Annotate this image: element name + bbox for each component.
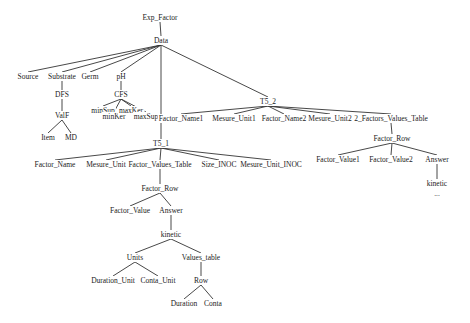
node-factor-row-2: Factor_Row bbox=[372, 134, 412, 143]
node-label: Conta_Unit bbox=[141, 276, 177, 285]
node-units: Units bbox=[126, 253, 144, 262]
node-label: maxSup bbox=[134, 112, 159, 121]
node-label: kinetic bbox=[161, 230, 182, 239]
edge-factor_row_2-factor_value1 bbox=[338, 143, 392, 155]
node-factor-value1: Factor_Value1 bbox=[315, 155, 361, 164]
node-label: Row bbox=[194, 276, 209, 285]
tree-diagram: Exp_FactorDataSourceSubstrateGermpHDFSVa… bbox=[0, 0, 470, 323]
node-label: Factor_Name2 bbox=[262, 114, 307, 123]
node-item: Item bbox=[40, 133, 56, 142]
edge-row-duration bbox=[184, 285, 201, 299]
node-label: T5_1 bbox=[153, 139, 169, 148]
node-factor-name2: Factor_Name2 bbox=[261, 114, 308, 123]
node-conta-unit: Conta_Unit bbox=[140, 276, 178, 285]
node-size-inoc: Size_INOC bbox=[201, 160, 238, 169]
node-label: CFS bbox=[114, 90, 127, 99]
node-germ: Germ bbox=[80, 72, 99, 81]
node-factor-name: Factor_Name bbox=[34, 160, 77, 169]
node-md: MD bbox=[64, 133, 79, 142]
node-kinetic-1: kinetic bbox=[160, 230, 183, 239]
node-label: Source bbox=[18, 72, 39, 81]
node-label: Mesure_Unit bbox=[86, 160, 126, 169]
edge-factor_row_2-factor_value2 bbox=[391, 143, 392, 155]
node-label: MD bbox=[65, 133, 78, 142]
node-source: Source bbox=[17, 72, 40, 81]
edge-two_factors_values_table-factor_row_2 bbox=[391, 123, 392, 134]
node-label: Germ bbox=[81, 72, 98, 81]
node-maxsup: maxSup bbox=[133, 112, 160, 121]
node-mesure-unit2: Mesure_Unit2 bbox=[307, 114, 353, 123]
node-t5-1: T5_1 bbox=[152, 139, 170, 148]
node-label: Data bbox=[154, 36, 169, 45]
node-label: Answer bbox=[425, 155, 449, 164]
node-label: Factor_Values_Table bbox=[128, 160, 192, 169]
edge-valf-md bbox=[62, 120, 71, 133]
node-label: Answer bbox=[159, 206, 183, 215]
edge-data-t5_2 bbox=[161, 45, 268, 97]
edge-kinetic_1-units bbox=[135, 239, 171, 253]
node-factor-values-table: Factor_Values_Table bbox=[127, 160, 193, 169]
edge-units-conta_unit bbox=[135, 262, 158, 276]
node-answer-1: Answer bbox=[158, 206, 184, 215]
node-substrate: Substrate bbox=[47, 72, 78, 81]
node-row: Row bbox=[193, 276, 210, 285]
node-label: 2_Factors_Values_Table bbox=[354, 114, 428, 123]
node-mesure-unit1: Mesure_Unit1 bbox=[211, 114, 257, 123]
node-data: Data bbox=[153, 36, 170, 45]
node-valf: ValF bbox=[54, 111, 70, 120]
edge-units-duration_unit bbox=[113, 262, 135, 276]
node-label: ValF bbox=[55, 111, 69, 120]
node-label: Duration bbox=[171, 299, 198, 308]
edge-valf-item bbox=[48, 120, 62, 133]
node-factor-value: Factor_Value bbox=[109, 206, 152, 215]
node-label: Conta bbox=[204, 299, 223, 308]
node-label: Values_table bbox=[182, 253, 221, 262]
node-label: kinetic bbox=[427, 179, 448, 188]
edge-t5_2-mesure_unit2 bbox=[268, 106, 330, 114]
node-label: Mesure_Unit_INOC bbox=[240, 160, 302, 169]
edge-data-germ bbox=[90, 45, 161, 72]
node-factor-row-1: Factor_Row bbox=[140, 184, 180, 193]
node-label: Factor_Name1 bbox=[159, 114, 204, 123]
node-ellipsis-2: ... bbox=[433, 189, 441, 198]
edge-t5_1-mesure_unit_inoc bbox=[161, 148, 271, 160]
node-label: DFS bbox=[55, 90, 69, 99]
node-mesure-unit-inoc: Mesure_Unit_INOC bbox=[239, 160, 303, 169]
node-label: Mesure_Unit2 bbox=[308, 114, 352, 123]
node-exp-factor: Exp_Factor bbox=[142, 13, 179, 22]
node-two-factors-values-table: 2_Factors_Values_Table bbox=[353, 114, 429, 123]
node-label: Item bbox=[41, 133, 55, 142]
node-ph: pH bbox=[115, 72, 127, 81]
edge-data-substrate bbox=[62, 45, 161, 72]
tree-nodes: Exp_FactorDataSourceSubstrateGermpHDFSVa… bbox=[17, 13, 451, 308]
node-label: Mesure_Unit1 bbox=[212, 114, 256, 123]
edge-row-conta bbox=[201, 285, 213, 299]
node-label: Factor_Row bbox=[141, 184, 179, 193]
node-label: Factor_Value1 bbox=[316, 155, 360, 164]
edge-t5_2-factor_name1 bbox=[181, 106, 268, 114]
edge-t5_1-size_inoc bbox=[161, 148, 219, 160]
edge-t5_1-factor_name bbox=[55, 148, 161, 160]
node-values-table: Values_table bbox=[181, 253, 222, 262]
edge-kinetic_1-values_table bbox=[171, 239, 201, 253]
node-kinetic-2: kinetic bbox=[426, 179, 449, 188]
node-conta: Conta bbox=[203, 299, 224, 308]
node-label: Factor_Value bbox=[110, 206, 151, 215]
node-label: Size_INOC bbox=[202, 160, 237, 169]
edge-exp_factor-data bbox=[160, 22, 161, 36]
edge-t5_1-factor_values_table bbox=[160, 148, 161, 160]
node-t5-2: T5_2 bbox=[259, 97, 277, 106]
node-label: Exp_Factor bbox=[143, 13, 178, 22]
edge-t5_1-mesure_unit bbox=[106, 148, 161, 160]
node-label: Duration_Unit bbox=[91, 276, 136, 285]
node-factor-value2: Factor_Value2 bbox=[368, 155, 414, 164]
node-mesure-unit: Mesure_Unit bbox=[85, 160, 127, 169]
node-label: pH bbox=[116, 72, 126, 81]
node-label: Units bbox=[127, 253, 143, 262]
node-label: Factor_Name bbox=[35, 160, 76, 169]
node-label: Factor_Value2 bbox=[369, 155, 413, 164]
node-factor-name1: Factor_Name1 bbox=[158, 114, 205, 123]
node-label: Substrate bbox=[48, 72, 77, 81]
node-label: T5_2 bbox=[260, 97, 276, 106]
node-label: ... bbox=[434, 189, 440, 198]
